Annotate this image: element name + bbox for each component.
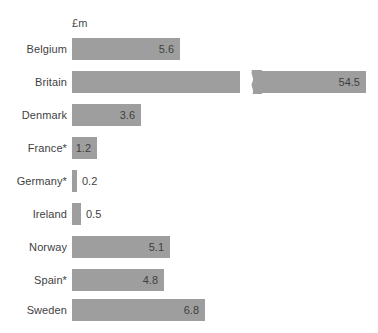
bar-wrapper: 5.6: [72, 38, 180, 60]
bar-value-label: 54.5: [339, 71, 360, 93]
bar-row: Norway5.1: [0, 236, 378, 258]
bar: [72, 170, 77, 192]
bar-wrapper: 3.6: [72, 104, 141, 126]
bar-wrapper: 0.2: [72, 170, 77, 192]
bar-value-label: 4.8: [143, 269, 158, 291]
category-label: Norway: [0, 236, 67, 258]
bar-wrapper: 54.5: [72, 71, 366, 93]
bar-value-label: 1.2: [76, 137, 91, 159]
bar-row: Britain54.5: [0, 71, 378, 93]
category-label: Britain: [0, 71, 67, 93]
category-label: Ireland: [0, 203, 67, 225]
bar: [72, 71, 366, 93]
category-label: Denmark: [0, 104, 67, 126]
bar-row: Denmark3.6: [0, 104, 378, 126]
bar-value-label: 0.2: [82, 170, 97, 192]
bar-row: France*1.2: [0, 137, 378, 159]
bar-value-label: 0.5: [86, 203, 101, 225]
bar-row: Germany*0.2: [0, 170, 378, 192]
bar-wrapper: 4.8: [72, 269, 164, 291]
bar-row: Belgium5.6: [0, 38, 378, 60]
bar-value-label: 5.1: [149, 236, 164, 258]
plot-area: Belgium5.6Britain54.5Denmark3.6France*1.…: [0, 0, 378, 333]
category-label: Belgium: [0, 38, 67, 60]
bar-row: Ireland0.5: [0, 203, 378, 225]
bar-wrapper: 0.5: [72, 203, 81, 225]
bar-value-label: 6.8: [184, 299, 199, 321]
bar-wrapper: 5.1: [72, 236, 170, 258]
category-label: Germany*: [0, 170, 67, 192]
bar-wrapper: 6.8: [72, 299, 205, 321]
bar-chart: £m Belgium5.6Britain54.5Denmark3.6France…: [0, 0, 378, 333]
bar-row: Sweden6.8: [0, 299, 378, 321]
bar-row: Spain*4.8: [0, 269, 378, 291]
bar-value-label: 3.6: [120, 104, 135, 126]
category-label: Sweden: [0, 299, 67, 321]
bar-wrapper: 1.2: [72, 137, 97, 159]
bar-value-label: 5.6: [159, 38, 174, 60]
category-label: France*: [0, 137, 67, 159]
category-label: Spain*: [0, 269, 67, 291]
bar: [72, 203, 81, 225]
